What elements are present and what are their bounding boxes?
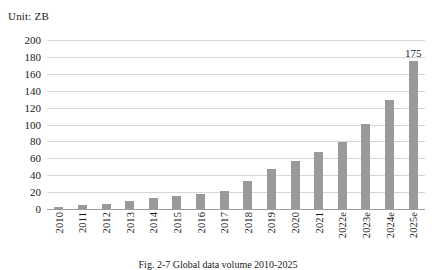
bar[interactable] <box>78 205 87 209</box>
x-axis-tick-2012: 2012 <box>101 212 112 233</box>
bar[interactable] <box>385 100 394 209</box>
x-tick-slot: 2024e <box>378 212 402 254</box>
y-axis-tick-160: 160 <box>25 68 42 80</box>
bar[interactable] <box>243 181 252 209</box>
x-axis-tick-2014: 2014 <box>148 212 159 233</box>
x-axis-tick-2021: 2021 <box>313 212 324 233</box>
x-tick-slot: 2010 <box>47 212 71 254</box>
bar-slot <box>260 40 284 209</box>
x-tick-slot: 2015 <box>165 212 189 254</box>
y-axis-tick-60: 60 <box>30 152 41 164</box>
bar-slot <box>94 40 118 209</box>
y-axis-tick-180: 180 <box>25 51 42 63</box>
x-axis-tick-2017: 2017 <box>219 212 230 233</box>
x-tick-slot: 2019 <box>260 212 284 254</box>
y-axis-tick-20: 20 <box>30 186 41 198</box>
x-axis-tick-2018: 2018 <box>242 212 253 233</box>
bar-value-label: 175 <box>405 47 422 59</box>
bar[interactable] <box>102 204 111 209</box>
bar[interactable] <box>409 61 418 209</box>
x-tick-slot: 2020 <box>283 212 307 254</box>
bar-slot <box>331 40 355 209</box>
bar[interactable] <box>361 124 370 209</box>
x-axis-tick-2010: 2010 <box>53 212 64 233</box>
y-axis-tick-140: 140 <box>25 85 42 97</box>
x-axis-tick-2016: 2016 <box>195 212 206 233</box>
bar-slot <box>71 40 95 209</box>
bar[interactable] <box>196 194 205 209</box>
bar[interactable] <box>125 201 134 209</box>
y-axis-tick-40: 40 <box>30 169 41 181</box>
x-tick-slot: 2025e <box>401 212 425 254</box>
bar-slot: 175 <box>401 40 425 209</box>
bar[interactable] <box>338 142 347 209</box>
x-tick-slot: 2013 <box>118 212 142 254</box>
bar-slot <box>307 40 331 209</box>
x-tick-slot: 2012 <box>94 212 118 254</box>
y-axis-tick-120: 120 <box>25 102 42 114</box>
axis-baseline <box>47 209 425 210</box>
x-axis-tick-2025e: 2025e <box>408 212 419 238</box>
x-axis-tick-2023e: 2023e <box>360 212 371 238</box>
x-axis-tick-2024e: 2024e <box>384 212 395 238</box>
bar-slot <box>354 40 378 209</box>
bar-series: 175 <box>47 40 425 209</box>
x-axis-tick-2022e: 2022e <box>337 212 348 238</box>
plot-area: 175 <box>47 40 425 209</box>
bar-slot <box>47 40 71 209</box>
bar[interactable] <box>149 198 158 209</box>
bar-slot <box>118 40 142 209</box>
x-tick-slot: 2023e <box>354 212 378 254</box>
x-axis-tick-labels: 2010201120122013201420152016201720182019… <box>47 212 425 254</box>
bar[interactable] <box>291 161 300 209</box>
x-tick-slot: 2016 <box>189 212 213 254</box>
bar[interactable] <box>314 152 323 209</box>
bar-slot <box>189 40 213 209</box>
x-axis-tick-2019: 2019 <box>266 212 277 233</box>
x-axis-tick-2013: 2013 <box>124 212 135 233</box>
bar-slot <box>283 40 307 209</box>
bar[interactable] <box>54 207 63 209</box>
bar[interactable] <box>172 196 181 209</box>
y-axis-tick-80: 80 <box>30 135 41 147</box>
bar-slot <box>142 40 166 209</box>
bar-slot <box>212 40 236 209</box>
x-tick-slot: 2022e <box>331 212 355 254</box>
bar-slot <box>236 40 260 209</box>
x-axis-tick-2020: 2020 <box>290 212 301 233</box>
unit-label: Unit: ZB <box>8 10 49 22</box>
x-tick-slot: 2011 <box>71 212 95 254</box>
y-axis-tick-0: 0 <box>36 203 42 215</box>
x-tick-slot: 2021 <box>307 212 331 254</box>
figure-caption: Fig. 2-7 Global data volume 2010-2025 <box>0 259 436 270</box>
y-axis-tick-labels: 200180160140120100806040200 <box>0 40 45 209</box>
y-axis-tick-200: 200 <box>25 34 42 46</box>
bar[interactable] <box>220 191 229 209</box>
y-axis-tick-100: 100 <box>25 119 42 131</box>
x-tick-slot: 2018 <box>236 212 260 254</box>
bar[interactable] <box>267 169 276 209</box>
x-tick-slot: 2017 <box>212 212 236 254</box>
x-axis-tick-2015: 2015 <box>171 212 182 233</box>
bar-slot <box>378 40 402 209</box>
x-axis-tick-2011: 2011 <box>77 212 88 233</box>
bar-slot <box>165 40 189 209</box>
x-tick-slot: 2014 <box>142 212 166 254</box>
